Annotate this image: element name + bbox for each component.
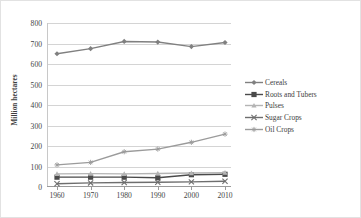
data-point-diamond: [251, 80, 256, 85]
y-tick-label: 700: [2, 39, 42, 48]
series-oil-crops: [54, 132, 227, 168]
series-layer: [47, 23, 231, 187]
legend-label: Cereals: [264, 78, 287, 87]
y-tick-label: 300: [2, 121, 42, 130]
x-tick-mark: [191, 187, 192, 190]
y-tick-label: 500: [2, 80, 42, 89]
legend-item[interactable]: Pulses: [244, 100, 356, 112]
series-line: [57, 134, 225, 165]
series-line: [57, 174, 225, 177]
line-chart: Million hectares 01002003004005006007008…: [0, 0, 361, 218]
series-cereals: [54, 39, 227, 57]
data-point-diamond: [122, 39, 127, 44]
x-tick-mark: [158, 187, 159, 190]
legend-marker-diamond-icon: [244, 77, 264, 88]
data-point-asterisk: [222, 132, 227, 137]
legend-item[interactable]: Cereals: [244, 77, 356, 89]
x-tick-mark: [225, 187, 226, 190]
legend-label: Roots and Tubers: [264, 90, 317, 99]
legend-item[interactable]: Roots and Tubers: [244, 89, 356, 101]
data-point-asterisk: [88, 160, 93, 165]
legend-marker-square-icon: [244, 89, 264, 100]
x-tick-mark: [91, 187, 92, 190]
legend-item[interactable]: Sugar Crops: [244, 112, 356, 124]
x-tick-mark: [57, 187, 58, 190]
data-point-diamond: [155, 39, 160, 44]
legend-marker-x-icon: [244, 112, 264, 123]
legend-marker-triangle-icon: [244, 100, 264, 111]
legend-marker-asterisk-icon: [244, 124, 264, 135]
data-point-asterisk: [251, 127, 256, 132]
legend: CerealsRoots and TubersPulsesSugar Crops…: [244, 77, 356, 135]
series-line: [57, 41, 225, 53]
y-tick-label: 200: [2, 142, 42, 151]
y-tick-label: 0: [2, 183, 42, 192]
y-tick-label: 800: [2, 19, 42, 28]
y-tick-label: 100: [2, 162, 42, 171]
data-point-asterisk: [189, 140, 194, 145]
legend-label: Oil Crops: [264, 125, 294, 134]
series-sugar-crops: [54, 179, 227, 187]
legend-item[interactable]: Oil Crops: [244, 123, 356, 135]
data-point-square: [155, 175, 160, 180]
y-tick-label: 600: [2, 60, 42, 69]
data-point-diamond: [54, 51, 59, 56]
data-point-asterisk: [54, 162, 59, 167]
y-tick-label: 400: [2, 101, 42, 110]
data-point-square: [251, 92, 256, 97]
legend-label: Sugar Crops: [264, 113, 302, 122]
legend-label: Pulses: [264, 101, 284, 110]
x-tick-mark: [124, 187, 125, 190]
data-point-diamond: [189, 44, 194, 49]
data-point-asterisk: [122, 149, 127, 154]
data-point-asterisk: [155, 146, 160, 151]
data-point-diamond: [88, 46, 93, 51]
x-tick-label: 2010: [205, 191, 245, 200]
series-line: [57, 181, 225, 183]
series-line: [57, 173, 225, 174]
data-point-diamond: [222, 40, 227, 45]
